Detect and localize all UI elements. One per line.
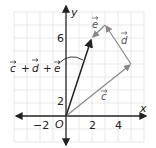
y-axis-label: y xyxy=(70,6,78,19)
svg-text:c: c xyxy=(101,91,107,102)
vector-diagram: y x O −2 2 4 2 6 c d e c + d + e xyxy=(0,0,156,148)
origin-label: O xyxy=(55,118,64,131)
x-axis-label: x xyxy=(139,102,147,115)
svg-text:e: e xyxy=(92,19,98,30)
svg-text:d: d xyxy=(121,35,128,46)
label-d: d xyxy=(121,32,128,47)
vector-resultant xyxy=(66,40,91,116)
vector-c xyxy=(66,65,130,116)
svg-text:+: + xyxy=(21,62,30,74)
y-axis xyxy=(63,6,69,145)
svg-text:e: e xyxy=(54,62,60,74)
y-tick-6: 6 xyxy=(57,32,64,45)
svg-text:d: d xyxy=(32,62,39,74)
x-tick-4: 4 xyxy=(115,119,122,132)
x-tick-neg2: −2 xyxy=(33,119,49,132)
y-tick-2: 2 xyxy=(57,95,64,108)
x-tick-2: 2 xyxy=(89,119,96,132)
svg-text:+: + xyxy=(43,62,52,74)
label-e: e xyxy=(92,17,98,31)
label-c: c xyxy=(101,90,107,103)
svg-text:c: c xyxy=(10,62,16,74)
